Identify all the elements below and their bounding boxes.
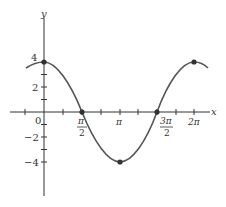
origin-label: 0 bbox=[35, 115, 41, 126]
point-zero-pi-half bbox=[79, 109, 84, 114]
y-tick-2: 2 bbox=[32, 82, 38, 93]
y-tick-neg4: −4 bbox=[24, 157, 39, 168]
point-max-2pi bbox=[191, 59, 196, 64]
y-tick-neg2: −2 bbox=[24, 132, 39, 143]
x-tick-3pi-half-num: 3π bbox=[160, 116, 173, 126]
y-axis-label: y bbox=[40, 8, 47, 19]
cosine-chart: y x 4 2 −2 −4 0 π 2 π 3π 2 2π bbox=[0, 0, 226, 207]
x-axis-label: x bbox=[211, 106, 217, 117]
x-tick-2pi: 2π bbox=[187, 117, 201, 127]
x-tick-pi-half-num: π bbox=[77, 116, 85, 126]
y-tick-4: 4 bbox=[31, 52, 37, 63]
point-min-pi bbox=[117, 159, 122, 164]
x-tick-3pi-half-den: 2 bbox=[164, 128, 170, 138]
point-max-0 bbox=[41, 59, 46, 64]
x-tick-pi: π bbox=[115, 117, 123, 127]
point-zero-3pi-half bbox=[154, 109, 159, 114]
x-tick-pi-half-den: 2 bbox=[79, 128, 85, 138]
